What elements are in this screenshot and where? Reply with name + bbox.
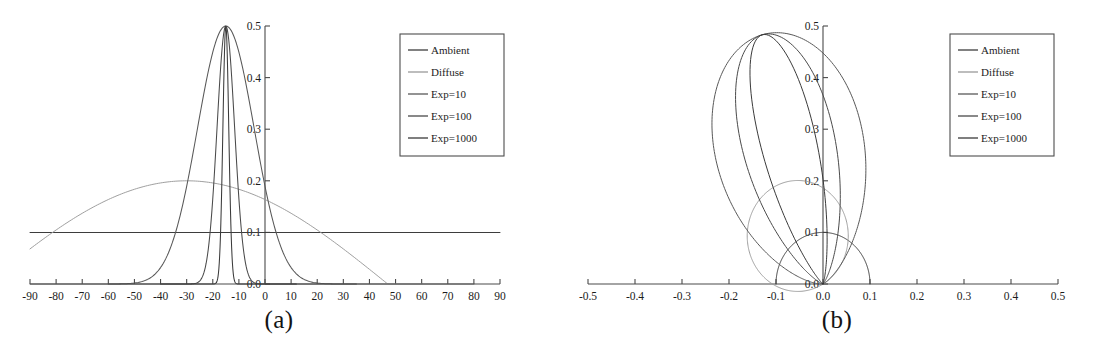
x-tick-label: -60 xyxy=(101,290,117,302)
y-tick-label: 0.3 xyxy=(805,123,820,135)
legend-label: Exp=1000 xyxy=(981,132,1027,144)
legend: AmbientDiffuseExp=10Exp=100Exp=1000 xyxy=(400,34,504,156)
legend-label: Diffuse xyxy=(431,66,464,78)
x-tick-label: 0.0 xyxy=(816,290,831,302)
x-tick-label: 30 xyxy=(338,290,350,302)
y-tick-label: 0.2 xyxy=(247,175,262,187)
x-tick-label: 0 xyxy=(262,290,268,302)
panel-a: -90-80-70-60-50-40-30-20-100102030405060… xyxy=(0,0,558,364)
x-tick-label: -40 xyxy=(153,290,169,302)
x-tick-label: -30 xyxy=(179,290,195,302)
y-tick-label: 0.4 xyxy=(247,72,262,84)
x-tick-label: -20 xyxy=(205,290,221,302)
polar-plot-b: -0.5-0.4-0.3-0.2-0.10.00.10.20.30.40.50.… xyxy=(558,0,1116,306)
x-tick-label: 10 xyxy=(285,290,297,302)
x-tick-label: -10 xyxy=(231,290,247,302)
series-curve-exp-10 xyxy=(712,33,866,284)
legend-label: Exp=100 xyxy=(431,110,472,122)
x-tick-label: 40 xyxy=(364,290,376,302)
legend-label: Exp=100 xyxy=(981,110,1022,122)
x-tick-label: 20 xyxy=(311,290,323,302)
cartesian-plot-a: -90-80-70-60-50-40-30-20-100102030405060… xyxy=(0,0,558,306)
x-tick-label: 60 xyxy=(416,290,428,302)
figure-container: -90-80-70-60-50-40-30-20-100102030405060… xyxy=(0,0,1117,364)
x-tick-label: 0.1 xyxy=(863,290,878,302)
x-tick-label: 50 xyxy=(390,290,402,302)
x-tick-label: 0.4 xyxy=(1004,290,1019,302)
panel-a-caption: (a) xyxy=(0,306,558,334)
legend-label: Ambient xyxy=(981,44,1020,56)
legend-label: Exp=10 xyxy=(431,88,466,100)
panel-b: -0.5-0.4-0.3-0.2-0.10.00.10.20.30.40.50.… xyxy=(558,0,1116,364)
x-tick-label: -0.2 xyxy=(720,290,738,302)
x-tick-label: -0.4 xyxy=(626,290,644,302)
x-tick-label: -0.5 xyxy=(579,290,597,302)
series-curve-exp-100 xyxy=(736,34,841,284)
x-tick-label: 0.5 xyxy=(1051,290,1066,302)
x-tick-label: -50 xyxy=(127,290,143,302)
legend: AmbientDiffuseExp=10Exp=100Exp=1000 xyxy=(950,34,1054,156)
x-tick-label: -90 xyxy=(22,290,38,302)
legend-label: Ambient xyxy=(431,44,470,56)
series-curve-exp-1000 xyxy=(161,27,297,284)
legend-label: Diffuse xyxy=(981,66,1014,78)
x-tick-label: 90 xyxy=(494,290,506,302)
x-tick-label: 0.3 xyxy=(957,290,972,302)
x-tick-label: -80 xyxy=(48,290,64,302)
x-tick-label: 0.2 xyxy=(910,290,925,302)
legend-label: Exp=10 xyxy=(981,88,1016,100)
x-tick-label: -0.1 xyxy=(767,290,785,302)
legend-label: Exp=1000 xyxy=(431,132,477,144)
x-tick-label: 70 xyxy=(442,290,454,302)
y-tick-label: 0.5 xyxy=(247,20,262,32)
y-tick-label: 0.5 xyxy=(805,20,820,32)
x-tick-label: -70 xyxy=(75,290,91,302)
x-tick-label: -0.3 xyxy=(673,290,691,302)
series-curve-exp-100 xyxy=(108,26,356,284)
panel-b-caption: (b) xyxy=(558,306,1116,334)
x-tick-label: 80 xyxy=(468,290,480,302)
